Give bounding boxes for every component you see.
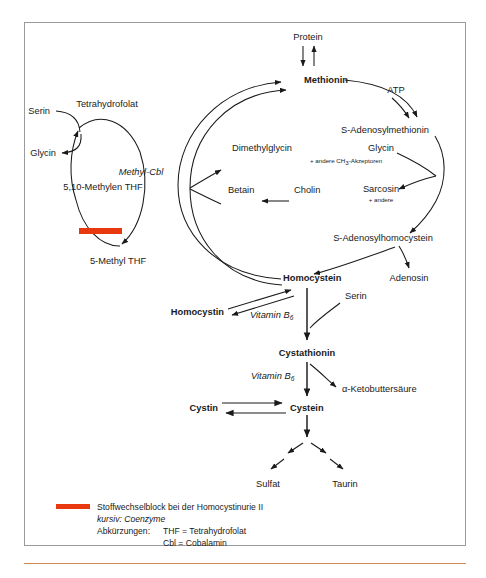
legend-abbrev-label: Abkürzungen:: [97, 526, 150, 536]
node-cystein: Cystein: [290, 403, 324, 413]
node-cholin: Cholin: [294, 185, 320, 195]
node-taurin: Taurin: [332, 479, 357, 489]
pathway-diagram: Serin Glycin Tetrahydrofolat 5,10-Methyl…: [0, 0, 486, 578]
node-homocystein: Homocystein: [283, 273, 342, 283]
legend-abbrev-1: THF = Tetrahydrofolat: [163, 526, 247, 536]
node-methyl-thf: 5-Methyl THF: [90, 256, 146, 266]
label-methyl-cbl: Methyl-Cbl: [119, 167, 164, 177]
legend-abbrev-2: Cbl = Cobalamin: [163, 538, 227, 548]
node-glycin-right: Glycin: [368, 143, 394, 153]
node-serin-left: Serin: [28, 106, 50, 116]
bottom-rule: [24, 563, 466, 564]
node-tetrahydrofolat: Tetrahydrofolat: [76, 99, 138, 109]
label-ch3-akzeptoren: + andere CH3-Akzeptoren: [310, 157, 383, 166]
diagram-page: Serin Glycin Tetrahydrofolat 5,10-Methyl…: [0, 0, 486, 578]
node-methylen-thf: 5,10-Methylen THF: [63, 182, 143, 192]
node-cystin: Cystin: [190, 403, 219, 413]
node-sulfat: Sulfat: [256, 479, 280, 489]
node-atp: ATP: [387, 85, 404, 95]
metabolic-block-marker: [79, 228, 122, 234]
legend-coenzyme-text: kursiv: Coenzyme: [97, 514, 166, 524]
node-dimethylglycin: Dimethylglycin: [232, 143, 292, 153]
node-ketobuttersaeure: α-Ketobuttersäure: [342, 384, 417, 394]
label-vitamin-b6-1: Vitamin B6: [250, 310, 294, 321]
node-sam: S-Adenosylmethionin: [341, 125, 429, 135]
node-methionin: Methionin: [304, 75, 348, 85]
node-adenosin: Adenosin: [390, 273, 429, 283]
node-protein: Protein: [293, 32, 322, 42]
legend-block-swatch: [56, 504, 90, 509]
label-sarcosin-andere: + andere: [369, 196, 394, 203]
legend-block-text: Stoffwechselblock bei der Homocystinurie…: [97, 502, 263, 512]
node-sah: S-Adenosylhomocystein: [333, 233, 433, 243]
node-homocystin: Homocystin: [171, 307, 225, 317]
node-betain: Betain: [228, 185, 254, 195]
node-glycin-left: Glycin: [30, 148, 56, 158]
label-vitamin-b6-2: Vitamin B6: [251, 371, 295, 382]
node-cystathionin: Cystathionin: [279, 348, 336, 358]
node-sarcosin: Sarcosin: [363, 184, 399, 194]
node-serin-right: Serin: [345, 291, 367, 301]
